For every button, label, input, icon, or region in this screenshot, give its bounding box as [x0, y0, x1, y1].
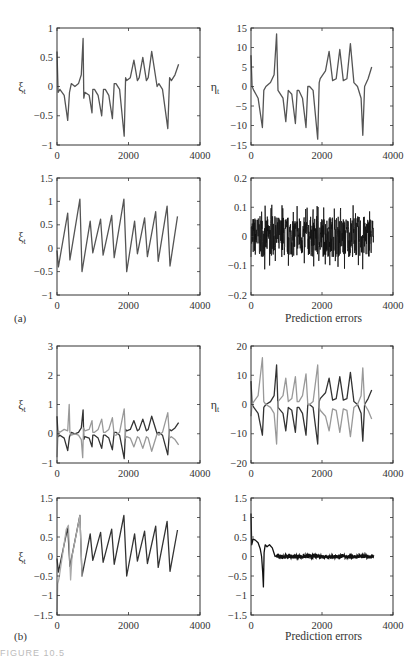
panel-a3: −1−0.500.511.5020004000ξt	[0, 150, 210, 310]
y-tick-label: −5	[236, 101, 247, 112]
chart-b1: −10123020004000ξt	[0, 318, 210, 478]
y-axis-label: ηt	[211, 80, 220, 96]
y-axis-label: ξt	[18, 230, 26, 246]
x-tick-label: 4000	[383, 620, 404, 631]
subfigure-label-a: (a)	[14, 312, 26, 324]
chart-a1: −1−0.500.51020004000ξt	[0, 0, 210, 160]
axes-frame	[57, 498, 200, 615]
x-tick-label: 0	[248, 300, 253, 311]
panel-a1: −1−0.500.51020004000ξt	[0, 0, 210, 160]
y-tick-label: 1	[48, 23, 53, 34]
x-tick-label: 2000	[312, 300, 333, 311]
series-line	[57, 405, 179, 458]
x-tick-label: 0	[54, 300, 59, 311]
y-tick-label: 1.5	[40, 173, 53, 184]
chart-b2: −20−1001020020004000ηt	[205, 318, 418, 478]
y-axis-label: ξt	[18, 80, 26, 96]
axes-frame	[251, 346, 393, 463]
y-tick-label: 20	[237, 341, 248, 352]
axes-frame	[57, 346, 200, 463]
y-tick-label: 0	[48, 551, 53, 562]
y-tick-label: 0	[242, 81, 247, 92]
y-tick-label: −1	[236, 590, 247, 601]
chart-a4: −0.2−0.100.10.2020004000	[205, 150, 418, 310]
chart-a3: −1−0.500.511.5020004000ξt	[0, 150, 210, 310]
y-tick-label: 0	[48, 81, 53, 92]
y-tick-label: 0.2	[234, 173, 247, 184]
y-tick-label: 1	[48, 512, 53, 523]
axes-frame	[251, 28, 393, 145]
y-tick-label: −0.2	[228, 290, 247, 301]
y-tick-label: 1	[242, 512, 247, 523]
y-tick-label: 0.5	[234, 532, 247, 543]
subfigure-label-b: (b)	[14, 630, 27, 642]
y-tick-label: −1.5	[34, 610, 53, 621]
y-tick-label: 1	[48, 399, 53, 410]
y-tick-label: −10	[231, 120, 247, 131]
y-tick-label: −0.1	[228, 260, 247, 271]
y-axis-label: ηt	[211, 398, 220, 414]
xlabel-a4: Prediction errors	[285, 312, 362, 324]
panel-b2: −20−1001020020004000ηt	[205, 318, 418, 478]
series-line	[251, 365, 372, 444]
y-tick-label: 0.1	[234, 202, 247, 213]
figure-caption: FIGURE 10.5	[0, 648, 65, 656]
chart-a2: −15−10−5051015020004000ηt	[205, 0, 418, 160]
y-tick-label: 15	[237, 23, 248, 34]
chart-b3: −1.5−1−0.500.511.5020004000ξt	[0, 470, 210, 630]
y-tick-label: 3	[48, 341, 53, 352]
y-axis-label: ξt	[18, 550, 26, 566]
y-tick-label: −15	[231, 140, 247, 151]
y-tick-label: 0.5	[40, 52, 53, 63]
series-line	[57, 516, 82, 616]
series-line	[57, 516, 178, 577]
y-tick-label: 1	[48, 196, 53, 207]
y-tick-label: 0	[242, 231, 247, 242]
y-tick-label: −1.5	[228, 610, 247, 621]
x-tick-label: 0	[248, 620, 253, 631]
series-line	[57, 199, 178, 272]
panel-a2: −15−10−5051015020004000ηt	[205, 0, 418, 160]
y-tick-label: −0.5	[228, 571, 247, 582]
y-tick-label: −0.5	[34, 571, 53, 582]
axes-frame	[57, 28, 200, 145]
y-tick-label: 0.5	[40, 532, 53, 543]
xlabel-b4: Prediction errors	[285, 630, 362, 642]
x-tick-label: 2000	[118, 300, 139, 311]
series-line	[251, 34, 372, 139]
y-tick-label: 0	[48, 243, 53, 254]
y-tick-label: 2	[48, 370, 53, 381]
chart-b4: −1.5−1−0.500.511.5020004000	[205, 470, 418, 630]
y-axis-label: ξt	[18, 398, 26, 414]
y-tick-label: 1.5	[40, 493, 53, 504]
series-noise	[276, 555, 374, 559]
x-tick-label: 4000	[383, 300, 404, 311]
y-tick-label: −20	[231, 458, 247, 469]
y-tick-label: 5	[242, 62, 247, 73]
x-tick-label: 2000	[118, 620, 139, 631]
y-tick-label: −10	[231, 428, 247, 439]
y-tick-label: −0.5	[34, 266, 53, 277]
series-line	[251, 514, 374, 587]
y-tick-label: −1	[42, 290, 53, 301]
y-tick-label: −1	[42, 140, 53, 151]
y-tick-label: 0	[242, 399, 247, 410]
y-tick-label: 1.5	[234, 493, 247, 504]
axes-frame	[57, 178, 200, 295]
x-tick-label: 0	[54, 620, 59, 631]
panel-b3: −1.5−1−0.500.511.5020004000ξt	[0, 470, 210, 630]
panel-b1: −10123020004000ξt	[0, 318, 210, 478]
y-tick-label: −0.5	[34, 110, 53, 121]
series-line	[57, 39, 179, 137]
series-noise	[251, 205, 374, 269]
y-tick-label: 0	[242, 551, 247, 562]
panel-b4: −1.5−1−0.500.511.5020004000	[205, 470, 418, 630]
y-tick-label: 10	[237, 370, 248, 381]
panel-a4: −0.2−0.100.10.2020004000	[205, 150, 418, 310]
y-tick-label: −1	[42, 590, 53, 601]
y-tick-label: 0.5	[40, 219, 53, 230]
y-tick-label: −1	[42, 458, 53, 469]
y-tick-label: 10	[237, 42, 248, 53]
y-tick-label: 0	[48, 428, 53, 439]
